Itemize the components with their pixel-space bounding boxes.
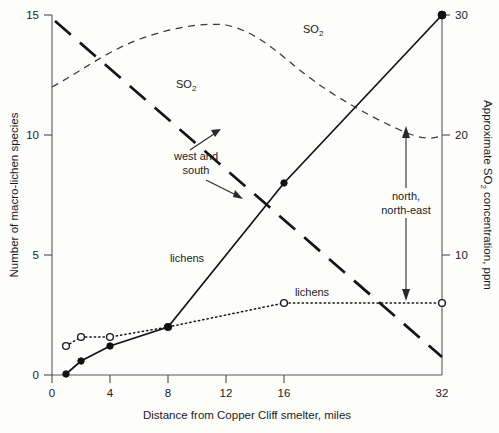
y2-axis-title-group: Approximate SO2 concentration, ppm — [479, 100, 494, 290]
west-south-label-line1: west and — [173, 150, 218, 162]
north-arrow-upper-head — [402, 126, 410, 138]
left-ticklabel-0: 0 — [33, 369, 39, 381]
west-south-arrow-up-head — [211, 129, 221, 137]
marker-filled-4 — [107, 343, 113, 349]
marker-filled-1 — [63, 371, 69, 377]
so2-label-west-south: SO2 — [176, 78, 197, 93]
marker-filled-2 — [78, 358, 84, 364]
so2-label-north-northeast-text: SO — [303, 23, 319, 35]
y2-axis-title: Approximate SO2 concentration, ppm — [479, 100, 494, 290]
so2-label-north-northeast-sub: 2 — [319, 29, 324, 38]
y-axis-title: Number of macro-lichen species — [8, 112, 20, 277]
marker-filled-8 — [165, 324, 171, 330]
lichens-label-north-northeast: lichens — [295, 286, 330, 298]
north-label-line2: north-east — [381, 204, 431, 216]
bottom-ticklabel-0: 0 — [49, 387, 55, 399]
bottom-ticklabel-12: 12 — [220, 387, 233, 399]
right-ticklabel-10: 10 — [455, 249, 468, 261]
so2-label-west-south-sub: 2 — [192, 84, 197, 93]
left-ticklabel-10: 10 — [26, 129, 39, 141]
west-south-label-line2: south — [183, 164, 210, 176]
so2-label-north-northeast: SO2 — [303, 23, 324, 38]
x-axis-title: Distance from Copper Cliff smelter, mile… — [143, 409, 351, 421]
marker-filled-16 — [281, 180, 287, 186]
chart-plot-area: 15 10 5 0 30 20 10 0 4 8 12 16 32 Distan… — [0, 0, 499, 433]
left-ticklabel-15: 15 — [26, 9, 39, 21]
chart-figure: 15 10 5 0 30 20 10 0 4 8 12 16 32 Distan… — [0, 0, 499, 433]
y2-axis-title-tail: concentration, ppm — [482, 189, 494, 290]
y2-axis-title-main: Approximate SO — [482, 100, 494, 184]
north-arrow-lower-head — [402, 289, 410, 301]
marker-open-16 — [281, 300, 288, 307]
marker-open-1 — [63, 343, 70, 350]
bottom-ticklabel-32: 32 — [436, 387, 449, 399]
right-ticklabel-30: 30 — [455, 9, 468, 21]
marker-open-32 — [439, 300, 446, 307]
marker-filled-32 — [438, 11, 446, 19]
so2-label-west-south-text: SO — [176, 78, 192, 90]
marker-open-2 — [78, 334, 85, 341]
left-ticklabel-5: 5 — [33, 249, 39, 261]
west-south-arrow-down-line — [206, 180, 238, 196]
bottom-ticklabel-8: 8 — [165, 387, 171, 399]
marker-open-4 — [107, 334, 114, 341]
north-label-line1: north, — [392, 190, 420, 202]
bottom-ticklabel-4: 4 — [107, 387, 114, 399]
bottom-ticklabel-16: 16 — [278, 387, 291, 399]
right-ticklabel-20: 20 — [455, 129, 468, 141]
series-so2-west-south — [55, 21, 442, 357]
series-so2-north-northeast — [52, 24, 442, 138]
lichens-label-west-south: lichens — [170, 252, 205, 264]
west-south-arrow-down-head — [233, 190, 243, 199]
